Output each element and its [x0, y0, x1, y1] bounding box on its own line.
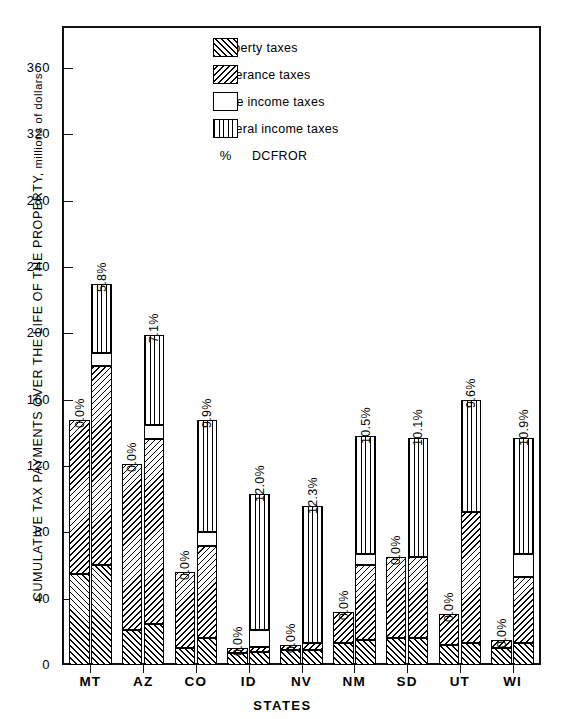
bar-segment-severance	[91, 366, 112, 565]
bar-segment-property	[491, 648, 512, 665]
dcfror-label: 9.6%	[464, 378, 478, 408]
bar-segment-property	[355, 640, 376, 665]
dcfror-label: 0.0%	[337, 590, 351, 620]
bar-segment-federal	[461, 400, 482, 513]
legend-swatch-state-income-icon	[213, 92, 238, 111]
x-axis-tick	[196, 665, 197, 673]
bar-segment-property	[302, 650, 323, 665]
x-axis-tick	[513, 665, 514, 673]
x-axis-tick	[249, 665, 250, 673]
x-axis-category-sd: SD	[381, 674, 433, 689]
bar-segment-property	[461, 643, 482, 665]
bar-wi-dcfror	[513, 438, 534, 665]
x-axis-title: STATES	[0, 698, 565, 713]
y-axis-title-main: CUMULATIVE TAX PAYMENTS OVER THE LIFE OF…	[31, 172, 45, 601]
legend-item-dcfror: % DCFROR	[213, 144, 339, 167]
bar-segment-severance	[122, 464, 143, 630]
bar-segment-severance	[302, 643, 323, 650]
bar-segment-state	[513, 554, 534, 577]
legend-label-dcfror: DCFROR	[252, 149, 307, 163]
y-axis-title-sub: millions of dollars	[32, 73, 44, 172]
legend-swatch-severance-icon	[213, 65, 238, 84]
x-axis-tick	[407, 665, 408, 673]
x-axis-category-mt: MT	[64, 674, 116, 689]
bar-sd-dcfror	[408, 438, 429, 665]
dcfror-label: 0.0%	[178, 550, 192, 580]
dcfror-label: 0.0%	[495, 618, 509, 648]
bar-segment-severance	[408, 557, 429, 638]
bar-segment-state	[144, 425, 165, 440]
bar-segment-severance	[461, 512, 482, 643]
bar-segment-federal	[408, 438, 429, 557]
x-axis-category-id: ID	[223, 674, 275, 689]
bar-segment-federal	[355, 436, 376, 554]
chart-legend: Property taxes Severance taxes State inc…	[213, 36, 339, 171]
bar-segment-state	[249, 630, 270, 647]
dcfror-label: 0.0%	[231, 627, 245, 657]
y-axis-tick	[64, 267, 73, 268]
legend-item-state-income: State income taxes	[213, 90, 339, 113]
bar-segment-property	[408, 638, 429, 665]
dcfror-label: 12.0%	[253, 465, 267, 502]
bar-segment-property	[197, 638, 218, 665]
bar-segment-federal	[197, 420, 218, 533]
dcfror-label: 0.0%	[389, 536, 403, 566]
y-axis-tick	[64, 201, 73, 202]
bar-segment-property	[513, 643, 534, 665]
dcfror-label: 12.3%	[306, 477, 320, 514]
bar-segment-state	[91, 353, 112, 366]
x-axis-category-co: CO	[170, 674, 222, 689]
legend-item-federal-income: Federal income taxes	[213, 117, 339, 140]
legend-item-property: Property taxes	[213, 36, 339, 59]
x-axis-tick	[354, 665, 355, 673]
bar-mt-base	[69, 420, 90, 665]
bar-segment-severance	[69, 420, 90, 574]
bar-ut-dcfror	[461, 400, 482, 665]
bar-segment-federal	[249, 494, 270, 630]
bar-segment-federal	[513, 438, 534, 554]
bar-segment-severance	[513, 577, 534, 643]
dcfror-label: 10.9%	[517, 409, 531, 446]
bar-segment-severance	[175, 572, 196, 648]
bar-az-base	[122, 464, 143, 665]
bar-segment-severance	[197, 546, 218, 639]
percent-symbol-icon: %	[213, 148, 238, 163]
x-axis-category-wi: WI	[487, 674, 539, 689]
bar-segment-severance	[249, 647, 270, 652]
bar-segment-property	[175, 648, 196, 665]
bar-segment-federal	[91, 284, 112, 354]
bar-nv-dcfror	[302, 506, 323, 665]
x-axis-category-az: AZ	[117, 674, 169, 689]
x-axis-tick	[302, 665, 303, 673]
dcfror-label: 0.0%	[125, 443, 139, 473]
dcfror-label: 9.9%	[200, 398, 214, 428]
bar-segment-severance	[355, 565, 376, 640]
bar-id-dcfror	[249, 494, 270, 665]
y-axis-title: CUMULATIVE TAX PAYMENTS OVER THE LIFE OF…	[31, 37, 45, 637]
y-axis-tick-label: 0	[6, 657, 50, 672]
dcfror-label: 7.1%	[147, 313, 161, 343]
legend-swatch-federal-income-icon	[213, 119, 238, 138]
bar-segment-property	[69, 574, 90, 665]
dcfror-label: 0.0%	[73, 398, 87, 428]
legend-swatch-property-icon	[213, 38, 238, 57]
dcfror-label: 10.5%	[359, 407, 373, 444]
x-axis-category-nv: NV	[276, 674, 328, 689]
bar-segment-property	[333, 643, 354, 665]
bar-az-dcfror	[144, 335, 165, 665]
bar-segment-federal	[302, 506, 323, 644]
x-axis-tick	[143, 665, 144, 673]
x-axis-tick	[460, 665, 461, 673]
dcfror-label: 0.0%	[442, 592, 456, 622]
bar-co-dcfror	[197, 420, 218, 665]
y-axis-tick	[64, 400, 73, 401]
bar-segment-property	[439, 645, 460, 665]
y-axis-tick	[64, 333, 73, 334]
x-axis-category-nm: NM	[328, 674, 380, 689]
bar-segment-severance	[144, 439, 165, 623]
legend-item-severance: Severance taxes	[213, 63, 339, 86]
bar-segment-state	[197, 532, 218, 545]
y-axis-tick	[64, 68, 73, 69]
x-axis-category-ut: UT	[434, 674, 486, 689]
chart-canvas: 04080120160200240280320360 CUMULATIVE TA…	[0, 0, 565, 719]
